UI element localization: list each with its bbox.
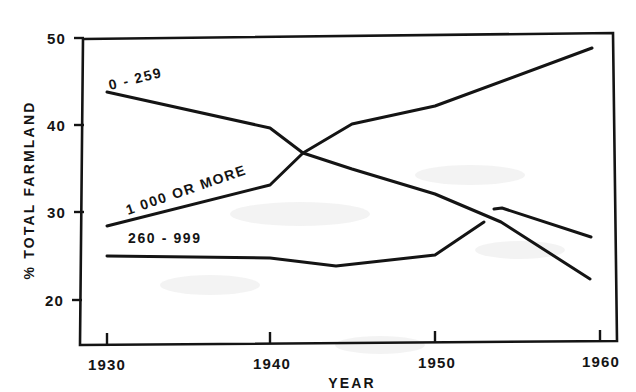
series-label-260-999: 260 - 999	[128, 230, 202, 246]
series-line-260-999-right	[494, 208, 591, 237]
x-axis-title: YEAR	[328, 375, 376, 391]
line-chart: 50 40 30 20 1930 1940 1950 1960 % TOTAL …	[0, 0, 636, 392]
series-label-0-259: 0 - 259	[107, 64, 164, 93]
y-tick-label-40: 40	[47, 117, 66, 134]
x-tick-label-1960: 1960	[582, 353, 620, 370]
series-label-1000-or-more: 1 000 OR MORE	[124, 161, 249, 217]
y-axis-title: % TOTAL FARMLAND	[21, 100, 37, 279]
x-tick-label-1940: 1940	[253, 355, 291, 372]
y-tick-label-30: 30	[47, 204, 66, 221]
x-tick-label-1930: 1930	[88, 356, 126, 373]
chart-figure: 50 40 30 20 1930 1940 1950 1960 % TOTAL …	[0, 0, 636, 392]
y-tick-label-20: 20	[45, 292, 64, 309]
y-tick-label-50: 50	[47, 30, 66, 47]
paper-texture	[160, 165, 565, 354]
x-tick-label-1950: 1950	[418, 354, 456, 371]
